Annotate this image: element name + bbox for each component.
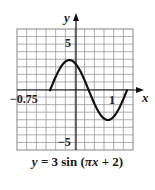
caption-rest: + 2) <box>98 154 123 169</box>
caption-pi-x: πx <box>85 154 99 169</box>
caption-equals: = 3 sin ( <box>38 154 85 169</box>
x-axis-label: x <box>141 90 149 105</box>
y-axis-arrow-icon <box>73 13 79 21</box>
tick-label-top: 5 <box>65 36 71 50</box>
tick-label-left: −0.75 <box>10 92 38 106</box>
tick-label-bottom: −5 <box>58 135 71 149</box>
equation-caption: y = 3 sin (πx + 2) <box>0 154 155 170</box>
tick-label-right: 1 <box>109 93 115 107</box>
y-axis-label: y <box>62 10 70 25</box>
